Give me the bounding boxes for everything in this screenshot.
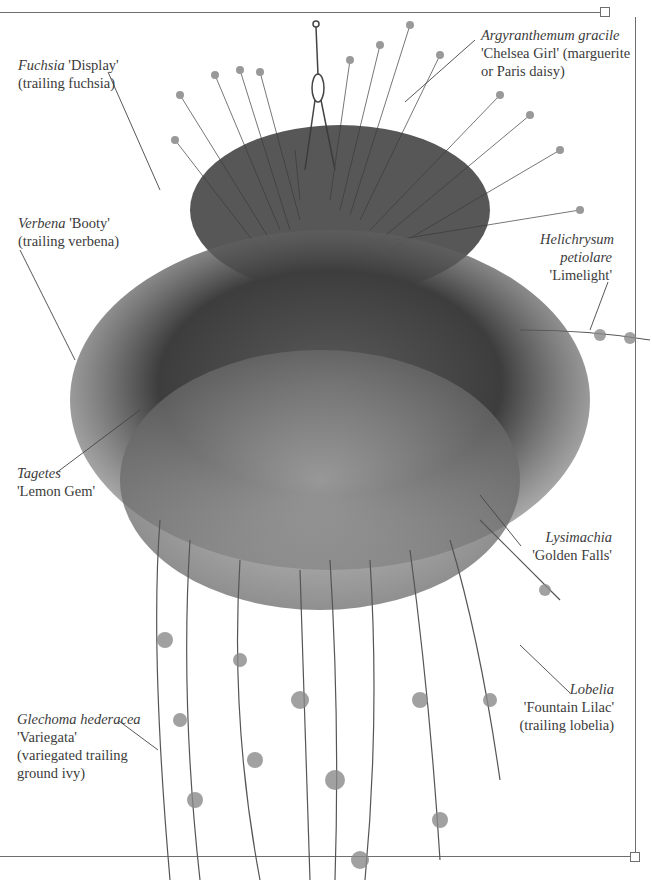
label-glechoma-latin: Glechoma hederacea (17, 711, 141, 727)
label-argyranthemum-latin: Argyranthemum gracile (481, 27, 619, 43)
label-tagetes-cultivar: 'Lemon Gem' (17, 482, 95, 500)
label-lobelia-cultivar: 'Fountain Lilac' (512, 698, 614, 716)
label-argyranthemum-common: or Paris daisy) (481, 62, 630, 80)
label-argyranthemum-cultivar: 'Chelsea Girl' (marguerite (481, 44, 630, 62)
label-fuchsia-common: (trailing fuchsia) (18, 74, 119, 92)
label-glechoma-common-2: ground ivy) (17, 764, 141, 782)
label-lobelia-latin: Lobelia (570, 681, 614, 697)
label-lobelia: Lobelia 'Fountain Lilac' (trailing lobel… (512, 680, 614, 734)
label-glechoma: Glechoma hederacea 'Variegata' (variegat… (17, 710, 141, 782)
label-tagetes-latin: Tagetes (17, 465, 61, 481)
label-verbena-common: (trailing verbena) (18, 232, 119, 250)
label-helichrysum-latin-2: petiolare (560, 249, 612, 265)
label-lobelia-common: (trailing lobelia) (512, 716, 614, 734)
label-glechoma-cultivar: 'Variegata' (17, 728, 141, 746)
label-lysimachia: Lysimachia 'Golden Falls' (520, 528, 612, 564)
label-lysimachia-latin: Lysimachia (546, 529, 612, 545)
label-helichrysum-latin-1: Helichrysum (540, 231, 614, 247)
label-verbena: Verbena 'Booty' (trailing verbena) (18, 214, 119, 250)
label-verbena-latin: Verbena (18, 215, 66, 231)
label-fuchsia: Fuchsia 'Display' (trailing fuchsia) (18, 56, 119, 92)
label-verbena-cultivar: 'Booty' (69, 215, 110, 231)
label-argyranthemum: Argyranthemum gracile 'Chelsea Girl' (ma… (481, 26, 630, 80)
label-fuchsia-latin: Fuchsia (18, 57, 65, 73)
label-helichrysum: Helichrysum petiolare 'Limelight' (540, 230, 612, 284)
label-helichrysum-cultivar: 'Limelight' (540, 266, 612, 284)
label-tagetes: Tagetes 'Lemon Gem' (17, 464, 95, 500)
label-fuchsia-cultivar: 'Display' (68, 57, 118, 73)
label-glechoma-common-1: (variegated trailing (17, 746, 141, 764)
label-lysimachia-cultivar: 'Golden Falls' (520, 546, 612, 564)
